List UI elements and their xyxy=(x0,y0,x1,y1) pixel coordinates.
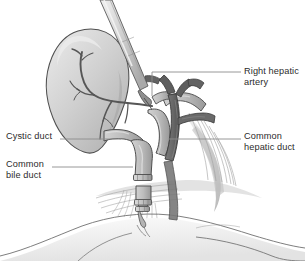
label-cystic-duct: Cystic duct xyxy=(6,131,76,142)
label-common-hepatic-duct: Common hepatic duct xyxy=(244,131,305,154)
label-right-hepatic-artery: Right hepatic artery xyxy=(244,66,305,89)
duodenal-contour xyxy=(0,214,305,261)
label-common-bile-duct: Common bile duct xyxy=(6,159,76,182)
anatomical-illustration: Right hepatic artery Common hepatic duct… xyxy=(0,0,305,261)
